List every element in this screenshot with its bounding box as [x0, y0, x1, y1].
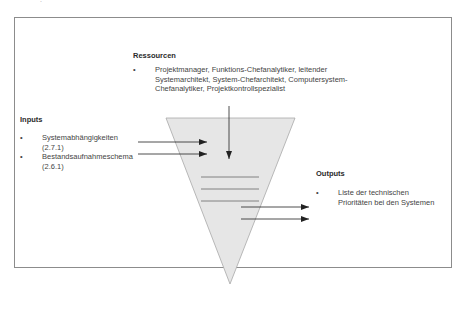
inputs-list: • Systemabhängigkeiten (2.7.1) • Bestand…	[20, 133, 140, 171]
corner-mark: .	[40, 0, 42, 3]
bullet: •	[20, 133, 23, 143]
input-item: • Systemabhängigkeiten (2.7.1)	[20, 133, 140, 152]
inputs-heading: Inputs	[20, 115, 43, 124]
resources-item: • Projektmanager, Funktions-Chefanalytik…	[133, 65, 373, 94]
outputs-heading: Outputs	[316, 169, 345, 178]
outputs-list: • Liste der technischen Prioritäten bei …	[316, 188, 456, 207]
bullet: •	[20, 152, 23, 162]
output-item: • Liste der technischen Prioritäten bei …	[316, 188, 456, 207]
resources-heading: Ressourcen	[133, 51, 176, 60]
resources-list: • Projektmanager, Funktions-Chefanalytik…	[133, 65, 373, 94]
bullet: •	[316, 188, 319, 198]
input-item: • Bestandsaufnahmeschema (2.6.1)	[20, 152, 140, 171]
bullet: •	[133, 65, 136, 75]
